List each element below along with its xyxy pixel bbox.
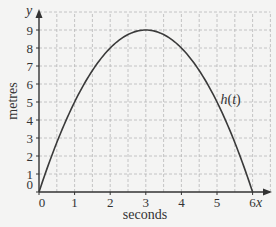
- y-tick-label: 7: [27, 59, 34, 74]
- x-tick-label: 0: [39, 195, 46, 210]
- y-axis-label: metres: [5, 82, 20, 119]
- y-tick-label: 8: [27, 41, 34, 56]
- chart: 01234560123456789 h(t) x y seconds metre…: [0, 0, 276, 227]
- y-tick-label: 6: [27, 77, 34, 92]
- y-tick-label: 5: [27, 95, 34, 110]
- tick-labels: 01234560123456789: [27, 23, 257, 211]
- x-axis-symbol: x: [255, 195, 263, 210]
- x-tick-label: 1: [71, 195, 78, 210]
- y-axis-arrow-icon: [36, 9, 43, 18]
- x-tick-label: 4: [178, 195, 185, 210]
- y-tick-label: 4: [27, 113, 34, 128]
- x-tick-label: 2: [107, 195, 114, 210]
- curve-label: h(t): [221, 92, 242, 108]
- y-tick-label: 9: [27, 23, 34, 38]
- y-tick-label: 3: [27, 131, 34, 146]
- x-tick-label: 5: [214, 195, 221, 210]
- y-tick-label: 2: [27, 149, 34, 164]
- y-tick-label: 1: [27, 167, 34, 182]
- y-axis-symbol: y: [24, 3, 33, 18]
- x-axis-label: seconds: [123, 207, 167, 222]
